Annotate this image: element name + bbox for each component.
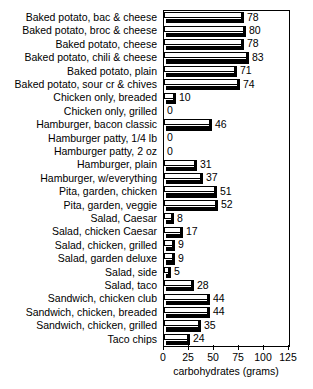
bar-row: 10 xyxy=(164,91,289,106)
category-label: Baked potato, plain xyxy=(67,64,157,79)
category-label: Salad, Caesar xyxy=(90,211,157,226)
bar-value-label: 31 xyxy=(200,159,212,170)
bar-shadow xyxy=(166,301,210,305)
plot-area: 7880788371741004600313751528179952844443… xyxy=(163,10,290,347)
x-tick xyxy=(263,345,264,350)
category-label: Baked potato, chili & cheese xyxy=(24,50,157,65)
category-label: Chicken only, breaded xyxy=(53,90,157,105)
bar-value-label: 37 xyxy=(206,172,218,183)
bar-end-cap xyxy=(171,213,174,224)
bar-face xyxy=(164,26,244,32)
bar-value-label: 44 xyxy=(213,306,225,317)
bar-end-cap xyxy=(215,200,218,211)
bar-end-cap xyxy=(243,26,246,37)
bar-shadow xyxy=(166,59,249,63)
bar-end-cap xyxy=(200,173,203,184)
category-label: Salad, taco xyxy=(104,278,157,293)
bar-end-cap xyxy=(180,227,183,238)
bar-face xyxy=(164,12,242,18)
bar-shadow xyxy=(166,327,201,331)
bar-end-cap xyxy=(168,267,171,278)
bar-row: 80 xyxy=(164,24,289,39)
category-label: Hamburger patty, 1/4 lb xyxy=(48,131,157,146)
bar-end-cap xyxy=(191,280,194,291)
bar-face xyxy=(164,173,201,179)
bar-end-cap xyxy=(241,39,244,50)
bar-face xyxy=(164,52,247,58)
bar-value-label: 44 xyxy=(213,293,225,304)
bar-value-label: 52 xyxy=(221,199,233,210)
category-label: Sandwich, chicken, breaded xyxy=(26,305,157,320)
bar-value-label: 78 xyxy=(247,12,259,23)
bar-value-label: 80 xyxy=(249,25,261,36)
bar-value-label: 10 xyxy=(179,92,191,103)
bar-shadow xyxy=(166,287,194,291)
bar-row: 71 xyxy=(164,65,289,80)
bar-shadow xyxy=(166,33,246,37)
category-label: Salad, garden deluxe xyxy=(58,251,157,266)
bar-face xyxy=(164,320,199,326)
bar-face xyxy=(164,280,192,286)
bar-shadow xyxy=(166,19,244,23)
bar-end-cap xyxy=(173,93,176,104)
category-label: Sandwich, chicken club xyxy=(48,291,157,306)
bar-value-label: 0 xyxy=(167,146,173,157)
bar-value-label: 0 xyxy=(167,132,173,143)
bar-row: 28 xyxy=(164,279,289,294)
bar-value-label: 5 xyxy=(174,266,180,277)
bar-shadow xyxy=(166,314,210,318)
bar-face xyxy=(164,307,208,313)
x-tick-label: 125 xyxy=(273,351,303,363)
bar-face xyxy=(164,334,188,340)
bar-face xyxy=(164,227,181,233)
bar-shadow xyxy=(166,167,197,171)
bar-shadow xyxy=(166,207,218,211)
bar-row: 46 xyxy=(164,118,289,133)
x-axis-title: carbohydrates (grams) xyxy=(163,365,289,377)
bar-shadow xyxy=(166,126,212,130)
category-label: Salad, side xyxy=(105,265,157,280)
bar-row: 8 xyxy=(164,212,289,227)
bar-end-cap xyxy=(198,320,201,331)
bar-shadow xyxy=(166,86,240,90)
bar-value-label: 71 xyxy=(240,65,252,76)
category-label: Hamburger patty, 2 oz xyxy=(54,144,157,159)
chart-title xyxy=(150,0,295,2)
bar-end-cap xyxy=(207,307,210,318)
bar-end-cap xyxy=(214,186,217,197)
category-label: Salad, chicken, grilled xyxy=(55,238,157,253)
category-axis-labels: Baked potato, bac & cheeseBaked potato, … xyxy=(0,10,160,345)
category-label: Hamburger, bacon classic xyxy=(36,117,157,132)
bar-end-cap xyxy=(234,66,237,77)
bar-value-label: 8 xyxy=(177,213,183,224)
bar-value-label: 17 xyxy=(186,226,198,237)
x-tick xyxy=(288,345,289,350)
x-tick xyxy=(213,345,214,350)
bar-row: 9 xyxy=(164,252,289,267)
x-tick xyxy=(163,345,164,350)
category-label: Baked potato, sour cr & chives xyxy=(15,77,157,92)
bar-value-label: 9 xyxy=(178,253,184,264)
category-label: Hamburger, plain xyxy=(77,157,157,172)
bar-row: 5 xyxy=(164,266,289,281)
category-label: Sandwich, chicken, grilled xyxy=(36,318,157,333)
bar-shadow xyxy=(166,180,203,184)
bar-end-cap xyxy=(172,253,175,264)
bar-end-cap xyxy=(246,52,249,63)
category-label: Baked potato, cheese xyxy=(55,37,157,52)
bar-value-label: 35 xyxy=(204,320,216,331)
bar-face xyxy=(164,200,216,206)
bar-row: 78 xyxy=(164,38,289,53)
bar-face xyxy=(164,39,242,45)
x-axis: 0255075100125 xyxy=(163,345,289,346)
bar-row: 44 xyxy=(164,292,289,307)
bar-value-label: 74 xyxy=(243,79,255,90)
category-label: Hamburger, w/everything xyxy=(40,171,157,186)
x-tick xyxy=(188,345,189,350)
bar-shadow xyxy=(166,193,217,197)
bar-value-label: 83 xyxy=(252,52,264,63)
bar-value-label: 24 xyxy=(193,333,205,344)
bar-face xyxy=(164,66,235,72)
bar-end-cap xyxy=(237,79,240,90)
bar-row: 44 xyxy=(164,306,289,321)
